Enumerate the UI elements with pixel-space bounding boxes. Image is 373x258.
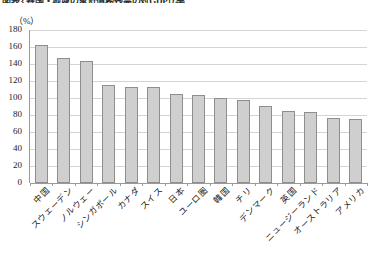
gridline bbox=[30, 30, 367, 31]
bar bbox=[192, 95, 205, 183]
y-axis-tick-label: 20 bbox=[0, 161, 22, 170]
bar bbox=[282, 111, 295, 183]
y-axis-line bbox=[29, 30, 30, 183]
x-axis-category-labels: 中国スウェーデンノルウェーシンガポールカナダスイス日本ユーロ圏韓国チリデンマーク… bbox=[0, 186, 373, 258]
y-axis-tick-label: 160 bbox=[0, 42, 22, 51]
bar bbox=[125, 87, 138, 183]
gridline bbox=[30, 47, 367, 48]
x-axis-category-label: カナダ bbox=[116, 186, 141, 211]
plot-area: 020406080100120140160180 bbox=[30, 30, 367, 183]
bar bbox=[80, 61, 93, 183]
x-axis-category-label: スイス bbox=[138, 186, 163, 211]
bar bbox=[327, 118, 340, 183]
y-axis-tick-label: 80 bbox=[0, 110, 22, 119]
bar-chart-figure: 図表3 各国・地域の家計債務残高の対GDP比率 （%） 020406080100… bbox=[0, 0, 373, 258]
bar bbox=[35, 45, 48, 183]
y-axis-tick-label: 180 bbox=[0, 25, 22, 34]
x-axis-category-label: 韓国 bbox=[212, 186, 231, 205]
y-axis-tick-label: 40 bbox=[0, 144, 22, 153]
bar bbox=[170, 94, 183, 183]
bar bbox=[237, 100, 250, 183]
bar bbox=[304, 112, 317, 183]
bar bbox=[147, 87, 160, 183]
bar bbox=[57, 58, 70, 183]
y-axis-tick-label: 100 bbox=[0, 93, 22, 102]
figure-title-cutoff: 図表3 各国・地域の家計債務残高の対GDP比率 bbox=[2, 0, 371, 3]
bar bbox=[102, 85, 115, 183]
bar bbox=[259, 106, 272, 183]
x-axis-baseline bbox=[30, 183, 367, 184]
y-axis-tick-label: 60 bbox=[0, 127, 22, 136]
bar bbox=[214, 98, 227, 183]
bar bbox=[349, 119, 362, 183]
y-axis-tick-label: 140 bbox=[0, 59, 22, 68]
y-axis-tick-label: 120 bbox=[0, 76, 22, 85]
